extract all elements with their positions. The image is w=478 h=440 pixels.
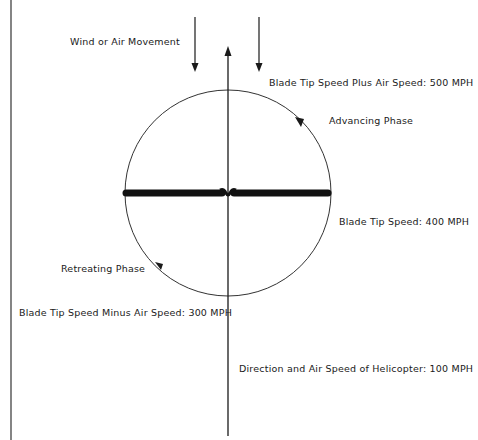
wind-arrow-right-icon [256,17,263,72]
blade-tip-speed-label: Blade Tip Speed: 400 MPH [339,216,469,227]
retreating-phase-label: Retreating Phase [61,263,145,274]
wind-label: Wind or Air Movement [70,36,180,47]
advancing-phase-label: Advancing Phase [329,115,413,126]
helicopter-speed-label: Direction and Air Speed of Helicopter: 1… [239,363,473,374]
wind-arrow-left-icon [192,17,199,72]
advancing-speed-label: Blade Tip Speed Plus Air Speed: 500 MPH [269,77,473,88]
retreating-speed-label: Blade Tip Speed Minus Air Speed: 300 MPH [19,307,232,318]
rotor-blade [126,189,328,195]
helicopter-direction-arrow-icon [225,46,232,436]
advancing-direction-arrow-icon [295,117,304,127]
